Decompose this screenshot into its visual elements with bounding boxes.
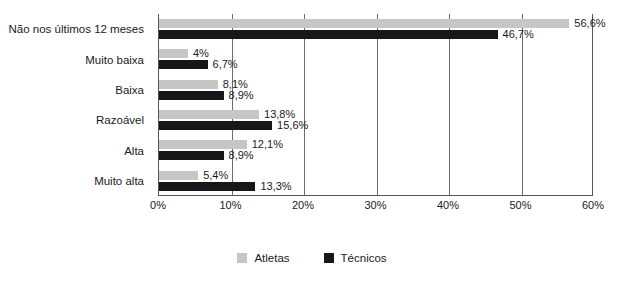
legend-label: Atletas (254, 252, 289, 264)
horizontal-bar-chart: Não nos últimos 12 mesesMuito baixaBaixa… (0, 0, 624, 281)
legend-label: Técnicos (341, 252, 387, 264)
bar-atletas (159, 49, 188, 58)
legend-item: Atletas (237, 252, 289, 264)
legend-swatch-tecnicos (324, 253, 334, 263)
bar-value-label: 12,1% (247, 140, 283, 149)
legend-swatch-atletas (237, 253, 247, 263)
x-axis-tick: 50% (509, 199, 531, 211)
category-label: Alta (124, 145, 144, 157)
bar-group: 56,6%46,7% (159, 19, 593, 44)
bar-value-label: 8,9% (224, 151, 254, 160)
x-axis-tick: 10% (219, 199, 241, 211)
bar-tecnicos (159, 91, 224, 100)
x-axis-tick: 30% (364, 199, 386, 211)
bar-value-label: 15,6% (272, 121, 308, 130)
x-axis-tick: 40% (437, 199, 459, 211)
x-axis-tick: 20% (292, 199, 314, 211)
bar-tecnicos (159, 151, 224, 160)
bar-value-label: 13,8% (259, 110, 295, 119)
bar-atletas (159, 19, 569, 28)
bar-group: 4%6,7% (159, 49, 593, 74)
bar-group: 5,4%13,3% (159, 171, 593, 196)
x-axis-tick: 0% (150, 199, 166, 211)
category-label: Baixa (115, 84, 144, 96)
category-label: Muito baixa (85, 54, 144, 66)
bar-tecnicos (159, 60, 208, 69)
bar-value-label: 4% (188, 49, 209, 58)
bar-tecnicos (159, 182, 255, 191)
bar-group: 8,1%8,9% (159, 80, 593, 105)
bar-value-label: 8,9% (224, 91, 254, 100)
category-axis-labels: Não nos últimos 12 mesesMuito baixaBaixa… (0, 14, 150, 196)
bar-atletas (159, 80, 218, 89)
plot-area: 56,6%46,7%4%6,7%8,1%8,9%13,8%15,6%12,1%8… (158, 14, 593, 196)
bar-tecnicos (159, 30, 498, 39)
bar-value-label: 56,6% (569, 19, 605, 28)
x-axis-tick: 60% (582, 199, 604, 211)
x-axis-tick-labels: 0%10%20%30%40%50%60% (158, 199, 594, 215)
bar-value-label: 5,4% (198, 171, 228, 180)
bar-value-label: 6,7% (208, 60, 238, 69)
category-label: Não nos últimos 12 meses (8, 23, 144, 35)
bar-value-label: 13,3% (255, 182, 291, 191)
bar-group: 13,8%15,6% (159, 110, 593, 135)
bar-group: 12,1%8,9% (159, 140, 593, 165)
category-label: Muito alta (94, 175, 144, 187)
bar-atletas (159, 171, 198, 180)
bar-value-label: 46,7% (498, 30, 534, 39)
legend-item: Técnicos (324, 252, 387, 264)
bar-atletas (159, 110, 259, 119)
chart-legend: AtletasTécnicos (0, 252, 624, 264)
bar-value-label: 8,1% (218, 80, 248, 89)
bar-tecnicos (159, 121, 272, 130)
bar-atletas (159, 140, 247, 149)
category-label: Razoável (96, 114, 144, 126)
